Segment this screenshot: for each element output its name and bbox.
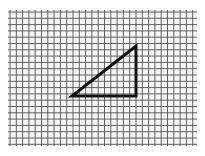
grid-diagram	[0, 0, 205, 156]
